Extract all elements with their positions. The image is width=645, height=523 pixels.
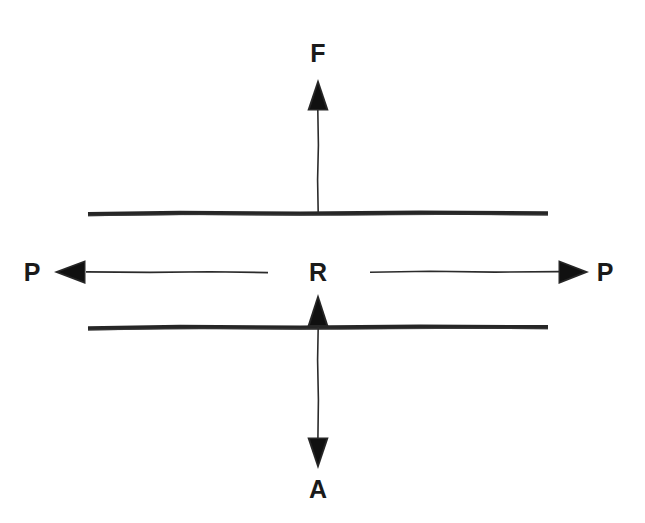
- pressure-arrow-left: [54, 260, 268, 284]
- force-arrow-up: [307, 79, 328, 213]
- area-arrow-down: [307, 327, 328, 469]
- label-pressure-left-p: P: [24, 258, 41, 286]
- reaction-arrow-up: [307, 294, 328, 327]
- label-force-f: F: [310, 39, 325, 67]
- upper-plate-line: [88, 213, 548, 216]
- pressure-arrow-right: [370, 260, 589, 284]
- force-diagram-illustration: F P R P A: [0, 0, 645, 523]
- label-reaction-r: R: [309, 258, 327, 286]
- label-pressure-right-p: P: [597, 258, 614, 286]
- label-area-a: A: [309, 475, 327, 503]
- force-diagram-canvas: F P R P A: [0, 0, 645, 523]
